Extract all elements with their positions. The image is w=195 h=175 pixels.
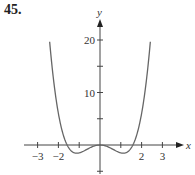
y-axis-label: y bbox=[96, 6, 102, 18]
x-tick-label: 2 bbox=[139, 150, 145, 162]
x-axis-label: x bbox=[185, 139, 191, 151]
function-graph: xy−3−2231020 bbox=[0, 0, 195, 175]
x-tick-label: −2 bbox=[53, 150, 65, 162]
x-tick-label: −3 bbox=[32, 150, 44, 162]
x-tick-label: 3 bbox=[160, 150, 166, 162]
y-axis-arrow-icon bbox=[97, 19, 103, 27]
y-tick-label: 10 bbox=[84, 87, 96, 99]
x-axis-arrow-icon bbox=[176, 142, 184, 148]
y-tick-label: 20 bbox=[84, 34, 96, 46]
